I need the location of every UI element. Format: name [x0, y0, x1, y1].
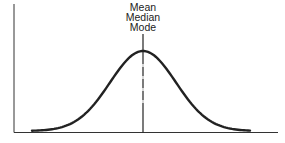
bell-curve	[32, 51, 250, 131]
mode-label: Mode	[113, 22, 173, 33]
normal-distribution-chart: Mean Median Mode	[0, 0, 285, 143]
